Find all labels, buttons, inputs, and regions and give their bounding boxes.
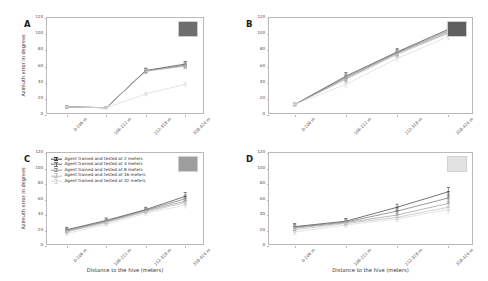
y-tickmark-a-0 bbox=[45, 115, 47, 116]
y-tick-label-d-1: 20 bbox=[251, 227, 265, 231]
legend-item-4[interactable]: Agent trained and tested at 32 meters bbox=[51, 178, 145, 184]
x-tick-label-c-0: 0-106 m bbox=[73, 248, 88, 263]
x-tickmark-b-0 bbox=[295, 115, 296, 117]
x-tickmark-a-1 bbox=[106, 115, 107, 117]
legend-label-3: Agent trained and tested at 16 meters bbox=[65, 173, 146, 177]
y-tick-label-a-5: 100 bbox=[29, 31, 43, 35]
series-layer-b bbox=[269, 18, 474, 115]
y-tick-label-a-6: 120 bbox=[29, 15, 43, 19]
y-tick-label-c-0: 0 bbox=[29, 243, 43, 247]
x-tickmark-c-3 bbox=[185, 246, 186, 248]
x-tickmark-c-0 bbox=[67, 246, 68, 248]
y-tickmark-b-0 bbox=[267, 115, 269, 116]
panel-letter-d: D bbox=[246, 154, 253, 164]
y-tick-label-b-1: 20 bbox=[251, 96, 265, 100]
y-tick-label-d-6: 120 bbox=[251, 150, 265, 154]
y-tickmark-c-0 bbox=[45, 246, 47, 247]
x-tickmark-d-0 bbox=[295, 246, 296, 248]
series-a-3 bbox=[65, 64, 187, 109]
y-tickmark-d-0 bbox=[267, 246, 269, 247]
y-tick-label-a-1: 20 bbox=[29, 96, 43, 100]
y-tick-label-d-2: 40 bbox=[251, 212, 265, 216]
x-tick-label-d-3: 318-424 m bbox=[456, 248, 475, 267]
y-tick-label-a-4: 80 bbox=[29, 47, 43, 51]
texture-inset-dark-grey bbox=[447, 21, 467, 37]
texture-inset-light-grey bbox=[447, 156, 467, 172]
y-tick-label-b-4: 80 bbox=[251, 47, 265, 51]
x-tick-label-a-3: 318-424 m bbox=[193, 117, 212, 136]
legend-label-1: Agent trained and tested at 4 meters bbox=[65, 162, 143, 166]
x-tickmark-d-1 bbox=[346, 246, 347, 248]
plot-area-b bbox=[268, 17, 473, 114]
y-axis-title-c: Azimuth error in degrees bbox=[21, 163, 26, 233]
x-tick-label-b-2: 212-318 m bbox=[405, 117, 424, 136]
texture-inset-dark-grey bbox=[178, 21, 198, 37]
y-tick-label-c-3: 60 bbox=[29, 196, 43, 200]
series-layer-d bbox=[269, 153, 474, 246]
chart-legend: Agent trained and tested at 2 metersAgen… bbox=[51, 156, 145, 184]
x-tick-label-a-2: 212-318 m bbox=[153, 117, 172, 136]
panel-letter-c: C bbox=[24, 154, 30, 164]
x-tickmark-a-3 bbox=[185, 115, 186, 117]
x-tick-label-d-2: 212-318 m bbox=[405, 248, 424, 267]
y-tick-label-c-5: 100 bbox=[29, 165, 43, 169]
x-tickmark-b-3 bbox=[448, 115, 449, 117]
x-tick-label-d-0: 0-106 m bbox=[301, 248, 316, 263]
x-tickmark-a-2 bbox=[146, 115, 147, 117]
series-c-4 bbox=[65, 202, 187, 235]
legend-label-4: Agent trained and tested at 32 meters bbox=[65, 179, 146, 183]
series-b-4 bbox=[293, 34, 450, 106]
x-tick-label-a-0: 0-106 m bbox=[73, 117, 88, 132]
x-axis-title-c: Distance to the hive (meters) bbox=[46, 268, 204, 273]
y-tick-label-a-3: 60 bbox=[29, 63, 43, 67]
y-tick-label-a-2: 40 bbox=[29, 80, 43, 84]
y-tick-label-c-1: 20 bbox=[29, 227, 43, 231]
plot-area-d bbox=[268, 152, 473, 245]
x-tickmark-c-2 bbox=[146, 246, 147, 248]
x-tickmark-a-0 bbox=[67, 115, 68, 117]
y-tick-label-b-0: 0 bbox=[251, 112, 265, 116]
series-a-4 bbox=[65, 82, 187, 108]
y-axis-title-a: Azimuth error in degrees bbox=[21, 30, 26, 100]
series-a-1 bbox=[65, 63, 187, 109]
x-axis-title-d: Distance to the hive (meters) bbox=[268, 268, 473, 273]
y-tick-label-d-0: 0 bbox=[251, 243, 265, 247]
x-tickmark-b-1 bbox=[346, 115, 347, 117]
panel-letter-a: A bbox=[24, 19, 31, 29]
x-tickmark-c-1 bbox=[106, 246, 107, 248]
y-tick-label-b-3: 60 bbox=[251, 63, 265, 67]
x-tickmark-b-2 bbox=[397, 115, 398, 117]
legend-label-0: Agent trained and tested at 2 meters bbox=[65, 157, 143, 161]
y-tick-label-b-5: 100 bbox=[251, 31, 265, 35]
x-tick-label-b-0: 0-106 m bbox=[301, 117, 316, 132]
x-tick-label-c-2: 212-318 m bbox=[153, 248, 172, 267]
x-tick-label-b-3: 318-424 m bbox=[456, 117, 475, 136]
series-a-2 bbox=[65, 63, 187, 108]
y-tick-label-d-5: 100 bbox=[251, 165, 265, 169]
x-tick-label-a-1: 106-212 m bbox=[114, 117, 133, 136]
x-tick-label-c-3: 318-424 m bbox=[193, 248, 212, 267]
series-c-0 bbox=[65, 193, 187, 233]
series-d-2 bbox=[293, 200, 450, 231]
x-tickmark-d-2 bbox=[397, 246, 398, 248]
figure-canvas: A0204060801001200-106 m106-212 m212-318 … bbox=[0, 0, 488, 281]
y-tick-label-c-6: 120 bbox=[29, 150, 43, 154]
panel-letter-b: B bbox=[246, 19, 252, 29]
x-tick-label-b-1: 106-212 m bbox=[353, 117, 372, 136]
x-tick-label-d-1: 106-212 m bbox=[353, 248, 372, 267]
x-tick-label-c-1: 106-212 m bbox=[114, 248, 133, 267]
legend-swatch-4 bbox=[51, 178, 62, 184]
x-tickmark-d-3 bbox=[448, 246, 449, 248]
y-tick-label-c-2: 40 bbox=[29, 212, 43, 216]
texture-inset-mid-grey bbox=[178, 156, 198, 172]
y-tick-label-c-4: 80 bbox=[29, 181, 43, 185]
y-tick-label-a-0: 0 bbox=[29, 112, 43, 116]
series-b-2 bbox=[293, 29, 450, 105]
y-tick-label-b-6: 120 bbox=[251, 15, 265, 19]
y-tick-label-d-4: 80 bbox=[251, 181, 265, 185]
y-tick-label-b-2: 40 bbox=[251, 80, 265, 84]
y-tick-label-d-3: 60 bbox=[251, 196, 265, 200]
series-d-1 bbox=[293, 194, 450, 230]
legend-label-2: Agent trained and tested at 8 meters bbox=[65, 168, 143, 172]
